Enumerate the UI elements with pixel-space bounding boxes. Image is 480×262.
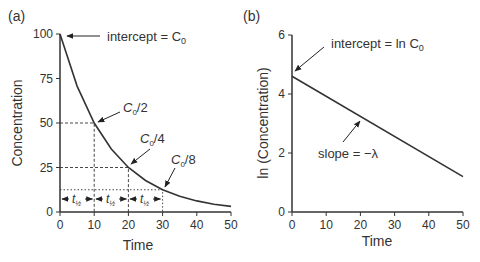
x-tick-label: 10 [320,218,334,232]
slope-label: slope = −λ [318,146,378,161]
panel-b: (b) 0 2 4 6 0 10 20 30 40 50 Tim [243,8,470,249]
quarter-arrow [131,149,150,164]
y-tick-label: 75 [40,72,54,86]
half-label: C0/2 [123,100,148,117]
x-tick-label: 20 [122,218,136,232]
y-axis-label: Concentration [9,79,25,166]
intercept-label: intercept = ln C0 [331,36,424,53]
x-axis-label: Time [123,237,154,253]
slope-arrow [343,121,360,142]
x-tick-label: 30 [156,218,170,232]
x-ticks: 0 10 20 30 40 50 [57,212,238,232]
y-tick-label: 25 [40,161,54,175]
eighth-label: C0/8 [171,152,196,169]
panel-a-label: (a) [8,8,25,24]
quarter-label: C0/4 [140,131,165,148]
y-axis-label: ln (Concentration) [255,67,271,178]
x-tick-label: 40 [422,218,436,232]
x-tick-label: 40 [190,218,204,232]
y-tick-label: 50 [40,116,54,130]
x-tick-label: 30 [388,218,402,232]
y-tick-label: 0 [278,205,285,219]
intercept-arrow [295,47,324,71]
svg-text:t½: t½ [140,192,149,207]
y-ticks: 0 2 4 6 [278,28,292,219]
intercept-label: intercept = C0 [107,29,186,46]
y-tick-label: 2 [278,146,285,160]
x-tick-label: 0 [289,218,296,232]
half-life-labels: t½ t½ t½ [72,192,149,207]
log-line [292,76,463,176]
x-tick-label: 50 [456,218,470,232]
x-tick-label: 50 [224,218,238,232]
y-tick-label: 100 [33,27,53,41]
svg-text:t½: t½ [106,192,115,207]
figure: (a) 0 25 50 75 100 0 10 20 [0,0,480,262]
panel-b-label: (b) [243,8,260,24]
y-tick-label: 0 [46,205,53,219]
half-life-guides [60,123,128,212]
x-tick-label: 0 [57,218,64,232]
x-ticks: 0 10 20 30 40 50 [289,212,470,232]
y-tick-label: 4 [278,87,285,101]
x-tick-label: 10 [88,218,102,232]
decay-curve [60,34,231,206]
eighth-arrow [165,168,175,187]
x-tick-label: 20 [354,218,368,232]
y-tick-label: 6 [278,28,285,42]
y-ticks: 0 25 50 75 100 [33,27,60,219]
x-axis-label: Time [362,233,393,249]
svg-text:t½: t½ [72,192,81,207]
half-arrow [98,112,120,122]
panel-a: (a) 0 25 50 75 100 0 10 20 [8,8,238,253]
